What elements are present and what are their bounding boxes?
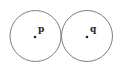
label-p: p (38, 25, 44, 34)
center-point-p (34, 36, 37, 39)
diagram-canvas: p q (0, 0, 121, 68)
circles-svg (0, 0, 121, 68)
label-q: q (90, 25, 96, 34)
center-point-q (86, 36, 89, 39)
